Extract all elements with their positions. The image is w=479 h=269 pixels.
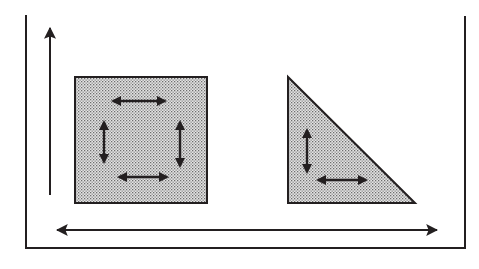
- stippled-triangle: [288, 77, 415, 203]
- diagram-canvas: [0, 0, 479, 269]
- square-shape: [75, 77, 207, 203]
- stippled-square: [75, 77, 207, 203]
